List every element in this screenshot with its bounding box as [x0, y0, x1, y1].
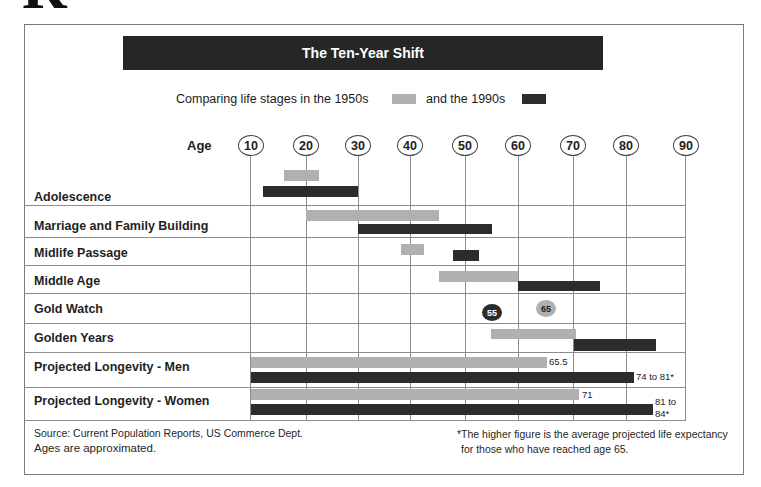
row-divider [24, 352, 685, 353]
footnote-line-1: *The higher figure is the average projec… [457, 428, 728, 440]
tick-90: 90 [673, 135, 699, 156]
decorative-letter: R [22, 0, 67, 18]
row-divider [24, 237, 685, 238]
row-label-longevity-men: Projected Longevity - Men [34, 360, 190, 374]
bar-longevity-men-1950s [250, 357, 547, 368]
value-longevity-women-1990s-line1: 81 to [655, 396, 676, 408]
row-divider [24, 205, 685, 206]
chart-title: The Ten-Year Shift [302, 45, 424, 61]
bar-marriage-1990s [358, 224, 492, 234]
tick-50: 50 [452, 135, 478, 156]
source-note: Source: Current Population Reports, US C… [34, 427, 303, 439]
row-label-middle-age: Middle Age [34, 274, 100, 288]
approximation-note: Ages are approximated. [34, 442, 156, 454]
label-column-divider [250, 205, 251, 421]
row-divider [24, 420, 685, 421]
bar-marriage-1950s [306, 210, 439, 221]
row-label-longevity-women: Projected Longevity - Women [34, 394, 210, 408]
bar-middle-age-1950s [439, 271, 518, 282]
row-label-golden-years: Golden Years [34, 331, 114, 345]
legend-text-1950s: Comparing life stages in the 1950s [176, 92, 368, 106]
tick-70: 70 [560, 135, 586, 156]
bar-midlife-1990s [453, 250, 479, 261]
row-label-midlife-passage: Midlife Passage [34, 246, 128, 260]
value-longevity-men-1950s: 65.5 [549, 356, 568, 368]
bar-golden-years-1990s [574, 339, 656, 351]
legend-text-1990s: and the 1990s [426, 92, 505, 106]
tick-80: 80 [613, 135, 639, 156]
bar-golden-years-1950s [491, 329, 576, 339]
legend: Comparing life stages in the 1950s and t… [0, 92, 761, 108]
row-label-marriage: Marriage and Family Building [34, 219, 208, 233]
badge-gold-watch-1950s: 65 [536, 300, 556, 317]
chart-title-bar: The Ten-Year Shift [123, 36, 603, 70]
bar-middle-age-1990s [518, 281, 600, 291]
tick-30: 30 [345, 135, 371, 156]
badge-gold-watch-1990s: 55 [482, 304, 502, 321]
tick-20: 20 [293, 135, 319, 156]
tick-40: 40 [397, 135, 423, 156]
legend-swatch-1950s [392, 94, 416, 104]
footnote-line-2: for those who have reached age 65. [461, 443, 629, 455]
row-label-adolescence: Adolescence [34, 190, 111, 204]
row-divider [24, 293, 685, 294]
tick-10: 10 [238, 135, 264, 156]
legend-swatch-1990s [522, 94, 546, 104]
row-divider [24, 323, 685, 324]
value-longevity-women-1990s-line2: 84* [655, 408, 669, 420]
bar-adolescence-1990s [263, 186, 358, 197]
value-longevity-women-1950s: 71 [582, 389, 593, 401]
bar-longevity-women-1990s [250, 404, 653, 415]
row-label-gold-watch: Gold Watch [34, 302, 103, 316]
gridline-90 [685, 156, 686, 421]
axis-label: Age [187, 138, 212, 153]
value-longevity-men-1990s: 74 to 81* [636, 371, 674, 383]
bar-adolescence-1950s [284, 170, 319, 181]
bar-longevity-men-1990s [250, 372, 634, 383]
tick-60: 60 [505, 135, 531, 156]
bar-longevity-women-1950s [250, 389, 579, 400]
row-divider [24, 265, 685, 266]
bar-midlife-1950s [401, 244, 424, 255]
row-divider [24, 387, 685, 388]
